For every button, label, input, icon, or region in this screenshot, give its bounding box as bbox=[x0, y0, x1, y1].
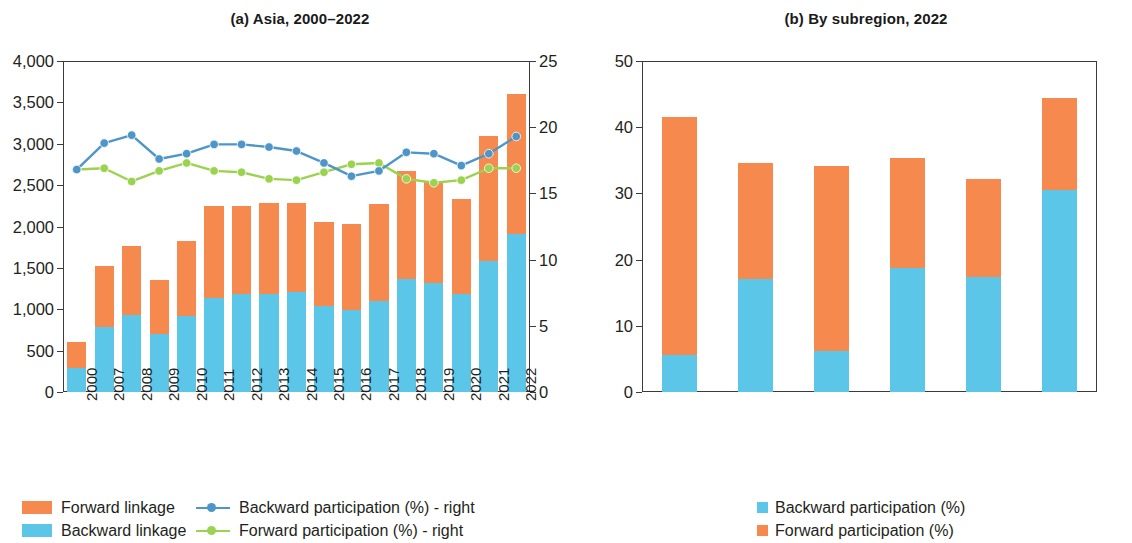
legend-label: Backward linkage bbox=[61, 522, 186, 540]
line-marker bbox=[182, 149, 191, 158]
panel-a-legend-lines: Backward participation (%) - rightForwar… bbox=[196, 496, 475, 542]
line-marker bbox=[292, 176, 301, 185]
legend-line-marker-icon bbox=[196, 524, 230, 537]
line-marker bbox=[320, 168, 329, 177]
legend-item[interactable]: Forward participation (%) - right bbox=[196, 519, 475, 542]
bar-segment-backward-participation bbox=[662, 355, 697, 392]
axis-tick-label: 4,000 bbox=[13, 52, 54, 71]
x-axis-label: 2008 bbox=[138, 368, 155, 401]
line-marker bbox=[210, 140, 219, 149]
line-marker bbox=[320, 159, 329, 168]
line-marker bbox=[375, 167, 384, 176]
line-marker bbox=[402, 175, 411, 184]
x-axis-label: 2017 bbox=[385, 368, 402, 401]
axis-tick bbox=[530, 193, 536, 194]
stacked-bar bbox=[890, 158, 925, 392]
axis-tick-label: 1,000 bbox=[13, 300, 54, 319]
x-axis-label: 2018 bbox=[412, 368, 429, 401]
axis-tick-label: 10 bbox=[615, 316, 633, 335]
line-marker bbox=[100, 164, 109, 173]
x-axis-label: 2020 bbox=[467, 368, 484, 401]
line-marker bbox=[237, 140, 246, 149]
axis-tick-label: 50 bbox=[615, 52, 633, 71]
line-marker bbox=[484, 164, 493, 173]
x-axis-label: 2007 bbox=[110, 368, 127, 401]
legend-swatch-icon bbox=[22, 524, 52, 537]
line-marker bbox=[127, 131, 136, 140]
axis-tick-label: 20 bbox=[539, 118, 557, 137]
x-axis-label: 2021 bbox=[495, 368, 512, 401]
line-marker bbox=[72, 165, 81, 174]
legend-label: Forward participation (%) - right bbox=[239, 522, 463, 540]
legend-label: Backward participation (%) - right bbox=[239, 499, 475, 517]
axis-tick-label: 3,500 bbox=[13, 93, 54, 112]
axis-tick bbox=[530, 127, 536, 128]
legend-swatch-icon bbox=[757, 525, 768, 536]
line-marker bbox=[375, 159, 384, 168]
line-marker bbox=[512, 132, 521, 141]
axis-tick-label: 500 bbox=[26, 341, 54, 360]
line-marker bbox=[265, 175, 274, 184]
legend-label: Forward linkage bbox=[61, 499, 175, 517]
x-axis-label: 2012 bbox=[248, 368, 265, 401]
x-axis-label: 2015 bbox=[330, 368, 347, 401]
x-axis-label: 2019 bbox=[440, 368, 457, 401]
line-marker bbox=[512, 164, 521, 173]
axis-tick-label: 40 bbox=[615, 118, 633, 137]
legend-line-marker-icon bbox=[196, 501, 230, 514]
x-axis-label: 2009 bbox=[165, 368, 182, 401]
axis-tick-label: 30 bbox=[615, 184, 633, 203]
stacked-bar bbox=[966, 179, 1001, 392]
bar-segment-backward-participation bbox=[1042, 190, 1077, 392]
axis-tick-label: 15 bbox=[539, 184, 557, 203]
line-marker bbox=[265, 143, 274, 152]
line-marker bbox=[210, 167, 219, 176]
x-axis-label: 2010 bbox=[193, 368, 210, 401]
legend-item[interactable]: Forward linkage bbox=[22, 496, 186, 519]
stacked-bar bbox=[1042, 98, 1077, 392]
axis-tick bbox=[57, 392, 63, 393]
panel-b-bars bbox=[642, 61, 1097, 392]
x-axis-label: 2022 bbox=[522, 368, 539, 401]
line-marker bbox=[430, 179, 439, 188]
axis-tick-label: 2,500 bbox=[13, 176, 54, 195]
panel-a-title: (a) Asia, 2000–2022 bbox=[0, 10, 600, 27]
stacked-bar bbox=[662, 117, 697, 392]
line-marker bbox=[155, 155, 164, 164]
axis-tick-label: 20 bbox=[615, 250, 633, 269]
bar-segment-backward-participation bbox=[890, 268, 925, 392]
panel-a-line-series bbox=[63, 61, 530, 392]
panel-b-legend: Backward participation (%)Forward partic… bbox=[757, 496, 965, 542]
x-axis-label: 2016 bbox=[357, 368, 374, 401]
bar-segment-forward-participation bbox=[890, 158, 925, 269]
line-marker bbox=[292, 147, 301, 156]
bar-segment-backward-participation bbox=[966, 277, 1001, 392]
legend-item[interactable]: Backward participation (%) bbox=[757, 496, 965, 519]
line-marker bbox=[237, 168, 246, 177]
stacked-bar bbox=[814, 166, 849, 392]
legend-swatch-icon bbox=[22, 501, 52, 514]
x-axis-label: 2000 bbox=[83, 368, 100, 401]
axis-tick bbox=[530, 61, 536, 62]
legend-item[interactable]: Backward participation (%) - right bbox=[196, 496, 475, 519]
axis-tick-label: 5 bbox=[539, 316, 548, 335]
axis-tick-label: 0 bbox=[539, 383, 548, 402]
panel-a-legend-swatches: Forward linkageBackward linkage bbox=[22, 496, 186, 542]
figure-root: (a) Asia, 2000–2022 05001,0001,5002,0002… bbox=[0, 0, 1132, 543]
line-marker bbox=[100, 139, 109, 148]
panel-asia-2000-2022: (a) Asia, 2000–2022 05001,0001,5002,0002… bbox=[0, 0, 600, 543]
axis-tick-label: 25 bbox=[539, 52, 557, 71]
legend-swatch-icon bbox=[757, 502, 768, 513]
axis-tick-label: 1,500 bbox=[13, 258, 54, 277]
line-marker bbox=[347, 172, 356, 181]
bar-segment-forward-participation bbox=[814, 166, 849, 351]
axis-tick-label: 10 bbox=[539, 250, 557, 269]
bar-segment-forward-participation bbox=[738, 163, 773, 280]
axis-tick bbox=[530, 260, 536, 261]
legend-item[interactable]: Forward participation (%) bbox=[757, 519, 965, 542]
line-marker bbox=[402, 148, 411, 157]
legend-item[interactable]: Backward linkage bbox=[22, 519, 186, 542]
stacked-bar bbox=[738, 163, 773, 392]
panel-by-subregion-2022: (b) By subregion, 2022 01020304050 Centr… bbox=[600, 0, 1132, 543]
axis-tick bbox=[636, 392, 642, 393]
